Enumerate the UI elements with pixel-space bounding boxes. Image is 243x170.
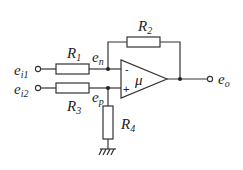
circuit-schematic: - + μ ei1 ei2 R1 R2 R3 R4 en ep eo [0, 0, 243, 170]
noninverting-sign: + [123, 83, 129, 95]
ground-icon [99, 149, 116, 155]
label-r4: R4 [120, 116, 135, 134]
input-terminal-ei1 [35, 66, 40, 71]
inverting-sign: - [125, 63, 129, 75]
label-r3: R3 [66, 98, 81, 116]
gain-label: μ [134, 72, 143, 88]
output-terminal-eo [207, 76, 212, 81]
label-ei1: ei1 [14, 62, 28, 80]
resistor-r3 [56, 83, 89, 93]
wire-feedback-right [160, 42, 180, 79]
label-r2: R2 [137, 18, 152, 36]
resistor-r1 [56, 64, 89, 74]
circuit-diagram: - + μ ei1 ei2 R1 R2 R3 R4 en ep eo [0, 0, 243, 170]
input-terminal-ei2 [35, 85, 40, 90]
resistor-r2 [127, 37, 160, 47]
junction-output [178, 77, 182, 81]
junction-ep [106, 86, 110, 90]
label-en: en [92, 49, 104, 67]
label-ei2: ei2 [14, 81, 28, 99]
resistor-r4 [103, 106, 113, 139]
label-ep: ep [92, 89, 104, 107]
label-r1: R1 [66, 45, 81, 63]
label-eo: eo [218, 71, 230, 89]
junction-en [106, 67, 110, 71]
